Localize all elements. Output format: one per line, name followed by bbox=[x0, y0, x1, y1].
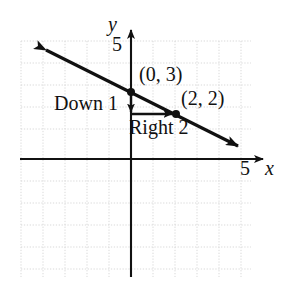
annotation-right: Right 2 bbox=[129, 117, 188, 137]
point-0-3 bbox=[127, 88, 135, 96]
y-axis-label: y bbox=[108, 14, 117, 34]
y-tick-label-5: 5 bbox=[112, 34, 122, 54]
point-label-0-3: (0, 3) bbox=[139, 64, 182, 84]
x-axis-label: x bbox=[265, 158, 274, 178]
point-label-2-2: (2, 2) bbox=[181, 88, 224, 108]
graph-figure: y x 5 5 (0, 3) (2, 2) Down 1 Right 2 bbox=[0, 0, 291, 285]
annotation-down: Down 1 bbox=[54, 93, 118, 113]
x-tick-label-5: 5 bbox=[240, 158, 250, 178]
coordinate-plane bbox=[0, 0, 291, 285]
